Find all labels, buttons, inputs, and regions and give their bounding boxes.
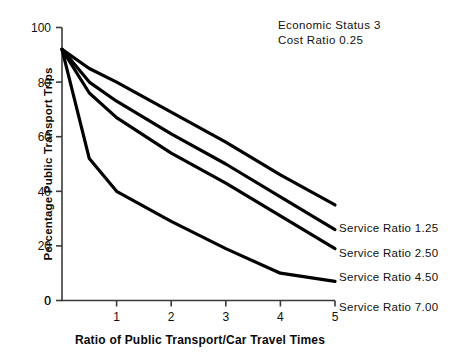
x-axis-ticks	[117, 301, 335, 307]
series-label-service-ratio-4-50: Service Ratio 4.50	[339, 271, 438, 283]
y-axis-title: Percentage Public Transport Trips	[42, 67, 54, 260]
y-axis-ticks	[56, 28, 62, 301]
y-tick-label-100: 100	[31, 21, 51, 35]
x-tick-label-3: 3	[222, 310, 229, 324]
y-axis-title-wrapper: Percentage Public Transport Trips	[38, 39, 56, 289]
series-label-service-ratio-2-50: Service Ratio 2.50	[339, 247, 438, 259]
series-lines	[62, 49, 335, 281]
axis-spines	[61, 28, 335, 301]
x-axis-title: Ratio of Public Transport/Car Travel Tim…	[0, 333, 400, 347]
x-tick-label-5: 5	[332, 310, 339, 324]
chart-page: 020406080100 012345 Economic Status 3 Co…	[0, 0, 460, 360]
x-axis-tick-labels: 012345	[44, 294, 338, 324]
series-line-service-ratio-1-25	[62, 49, 335, 205]
series-line-service-ratio-7-00	[62, 49, 335, 281]
series-label-service-ratio-7-00: Service Ratio 7.00	[339, 301, 438, 313]
annotation-line-economic-status: Economic Status 3	[278, 18, 381, 33]
x-tick-label-2: 2	[168, 310, 175, 324]
series-label-service-ratio-1-25: Service Ratio 1.25	[339, 222, 438, 234]
annotation-line-cost-ratio: Cost Ratio 0.25	[278, 33, 381, 48]
x-tick-label-4: 4	[277, 310, 284, 324]
x-tick-label-1: 1	[113, 310, 120, 324]
chart-annotation: Economic Status 3 Cost Ratio 0.25	[278, 18, 381, 48]
x-tick-label-0: 0	[44, 294, 51, 308]
